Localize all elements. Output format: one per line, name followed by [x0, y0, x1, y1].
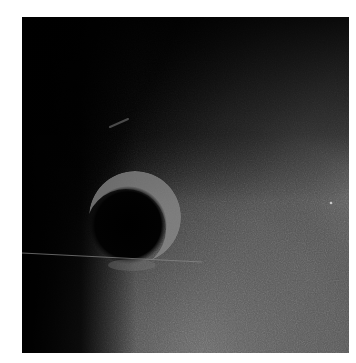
lower-rim-glow	[108, 259, 156, 271]
bright-speck	[330, 202, 333, 205]
dark-disc	[89, 186, 167, 264]
grayscale-photo	[22, 17, 349, 353]
top-shadow	[22, 17, 349, 353]
photo-frame	[22, 17, 349, 353]
